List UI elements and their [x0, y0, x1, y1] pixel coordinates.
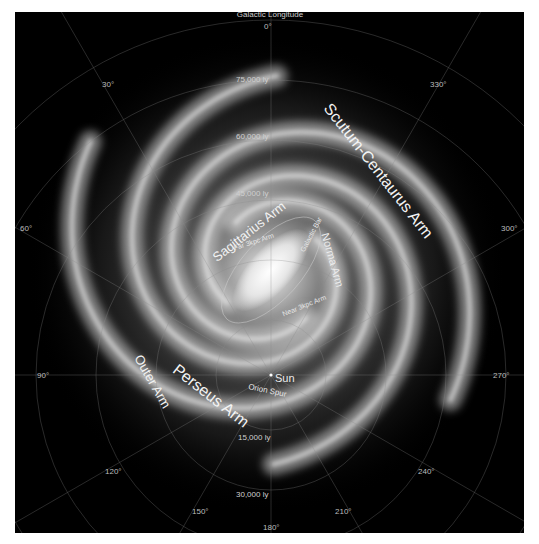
sun-marker: [269, 373, 272, 376]
longitude-label-330: 330°: [430, 80, 447, 89]
longitude-label-300: 300°: [501, 224, 518, 233]
distance-label-60000: 60,000 ly: [236, 132, 268, 141]
distance-label-30000: 30,000 ly: [236, 490, 268, 499]
distance-label-75000: 75,000 ly: [236, 75, 268, 84]
longitude-label-270: 270°: [493, 371, 510, 380]
longitude-label-60: 60°: [20, 224, 32, 233]
longitude-label-150: 150°: [192, 507, 209, 516]
longitude-label-180: 180°: [263, 523, 280, 532]
label-sun: Sun: [275, 372, 295, 384]
longitude-label-30: 30°: [102, 80, 114, 89]
longitude-label-120: 120°: [105, 467, 122, 476]
galaxy-map-panel: Galactic Longitude 0° 30° 60° 90° 120° 1…: [15, 12, 524, 533]
longitude-label-210: 210°: [335, 507, 352, 516]
longitude-label-90: 90°: [37, 371, 49, 380]
longitude-label-0: 0°: [264, 22, 272, 31]
chart-title: Galactic Longitude: [230, 12, 310, 19]
distance-label-45000: 45,000 ly: [236, 189, 268, 198]
galaxy-illustration: [15, 12, 524, 533]
longitude-label-240: 240°: [418, 467, 435, 476]
distance-label-15000: 15,000 ly: [238, 433, 270, 442]
